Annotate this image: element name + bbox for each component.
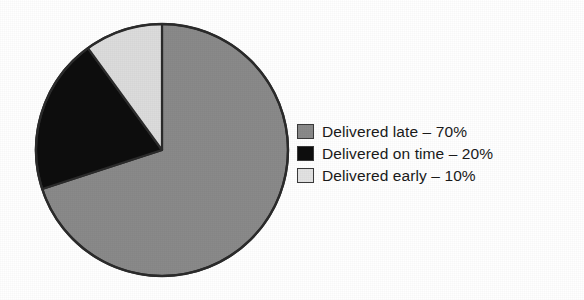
- legend-label-delivered-on-time: Delivered on time – 20%: [322, 144, 493, 163]
- legend-label-delivered-late: Delivered late – 70%: [322, 122, 467, 141]
- pie-chart-figure: Delivered late – 70% Delivered on time –…: [0, 0, 584, 300]
- legend-swatch-delivered-on-time: [297, 146, 314, 161]
- chart-legend: Delivered late – 70% Delivered on time –…: [297, 120, 577, 186]
- legend-swatch-delivered-late: [297, 124, 314, 139]
- legend-item-delivered-early: Delivered early – 10%: [297, 164, 577, 186]
- legend-item-delivered-late: Delivered late – 70%: [297, 120, 577, 142]
- legend-swatch-delivered-early: [297, 168, 314, 183]
- legend-item-delivered-on-time: Delivered on time – 20%: [297, 142, 577, 164]
- pie-chart-graphic: [34, 22, 290, 278]
- pie-svg: [34, 22, 290, 278]
- legend-label-delivered-early: Delivered early – 10%: [322, 166, 476, 185]
